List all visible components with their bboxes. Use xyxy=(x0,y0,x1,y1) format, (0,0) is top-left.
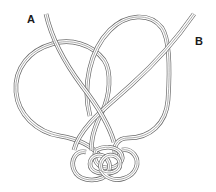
woven-knot xyxy=(73,147,137,180)
knot-illustration xyxy=(0,0,216,192)
cord-label-a: A xyxy=(27,14,35,25)
cord-a-end xyxy=(46,14,114,142)
cord-label-b: B xyxy=(195,36,203,47)
